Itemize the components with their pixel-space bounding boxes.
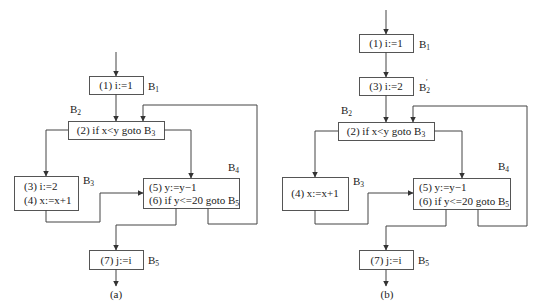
block-b1-a: (1) i:=1 B1 (90, 77, 160, 95)
edge-b2-b3-b (315, 131, 338, 177)
b1-a-line-1: (1) i:=1 (99, 79, 132, 92)
b5-a-label: B5 (148, 254, 159, 268)
b4-b-line-2: (6) if y<=20 goto B5 (419, 195, 509, 209)
edge-b2-b4-a (164, 130, 191, 178)
b4-a-line-2: (6) if y<=20 goto B5 (149, 194, 239, 208)
b3-a-line-1: (3) i:=2 (24, 180, 57, 193)
block-b5-b: (7) j:=i B5 (360, 251, 430, 270)
b1-a-label: B1 (148, 80, 159, 94)
edge-b2-b3-a (46, 130, 68, 176)
edge-b4-b5-a (116, 208, 176, 250)
b5-b-label: B5 (418, 254, 429, 268)
figure-b: (1) i:=1 B1 (3) i:=2 B2′ B2 (2) if x<y g… (283, 10, 528, 301)
caption-a: (a) (110, 288, 123, 301)
caption-b: (b) (381, 288, 394, 301)
b2-b-line-1: (2) if x<y goto B3 (347, 125, 426, 139)
edge-b4-b5-b (386, 209, 446, 250)
b3-a-line-2: (4) x:=x+1 (24, 194, 72, 207)
b1-b-line-1: (1) i:=1 (369, 37, 402, 50)
figure-a: (1) i:=1 B1 B2 (2) if x<y goto B3 (3) i:… (15, 52, 258, 301)
flow-graph-canvas: (1) i:=1 B1 B2 (2) if x<y goto B3 (3) i:… (0, 0, 537, 307)
block-b3-b: (4) x:=x+1 B3 (283, 175, 365, 211)
b4-a-line-1: (5) y:=y−1 (149, 181, 197, 194)
b1-b-label: B1 (419, 38, 430, 52)
b5-b-line-1: (7) j:=i (371, 254, 402, 267)
b2-a-label: B2 (70, 103, 81, 117)
b4-a-label: B4 (228, 161, 239, 175)
b2-a-line-1: (2) if x<y goto B3 (77, 124, 156, 138)
block-b5-a: (7) j:=i B5 (90, 251, 160, 270)
b2p-b-label: B2′ (419, 78, 430, 95)
block-b3-a: (3) i:=2 (4) x:=x+1 B3 (15, 174, 95, 211)
b4-b-label: B4 (498, 160, 509, 174)
b5-a-line-1: (7) j:=i (101, 254, 132, 267)
edge-b2-b4-b (434, 131, 462, 178)
block-b2-prime-b: (3) i:=2 B2′ (360, 78, 431, 96)
b3-b-line-1: (4) x:=x+1 (291, 187, 339, 200)
b4-b-line-1: (5) y:=y−1 (419, 181, 467, 194)
block-b1-b: (1) i:=1 B1 (360, 35, 431, 53)
b3-b-label: B3 (353, 175, 364, 189)
b2p-b-line-1: (3) i:=2 (369, 80, 402, 93)
b2-b-label: B2 (341, 104, 352, 118)
b3-a-label: B3 (83, 174, 94, 188)
